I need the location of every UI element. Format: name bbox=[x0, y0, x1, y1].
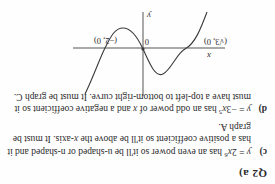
answer-marker-d: d) bbox=[259, 103, 267, 116]
y-axis-label: y bbox=[147, 11, 151, 20]
origin-point bbox=[141, 47, 144, 50]
answer-item-c: c) y = 2x6 has an even power so it'll be… bbox=[5, 120, 267, 158]
cubic-curve bbox=[85, 12, 207, 94]
answer-item-d: d) y = −3x5 has an odd power of x and a … bbox=[5, 90, 267, 115]
answer-text-d: y = −3x5 has an odd power of x and a neg… bbox=[5, 90, 251, 115]
origin-label: 0 bbox=[145, 38, 149, 47]
root-label-sqrt3: (√3, 0) bbox=[204, 38, 227, 47]
answer-text-c: y = 2x6 has an even power so it'll be u-… bbox=[5, 120, 251, 158]
x-axis-label: x bbox=[207, 51, 211, 60]
answers-list: c) y = 2x6 has an even power so it'll be… bbox=[5, 85, 267, 158]
question-marker: Q2 a) bbox=[239, 168, 267, 180]
scanned-worksheet-page: x y (√3, 0) (−2, 0) 0 Q2 a) c) y = 2x6 h… bbox=[0, 0, 275, 184]
root-label-negative-2: (−2, 0) bbox=[94, 37, 117, 46]
answer-marker-c: c) bbox=[260, 145, 267, 158]
